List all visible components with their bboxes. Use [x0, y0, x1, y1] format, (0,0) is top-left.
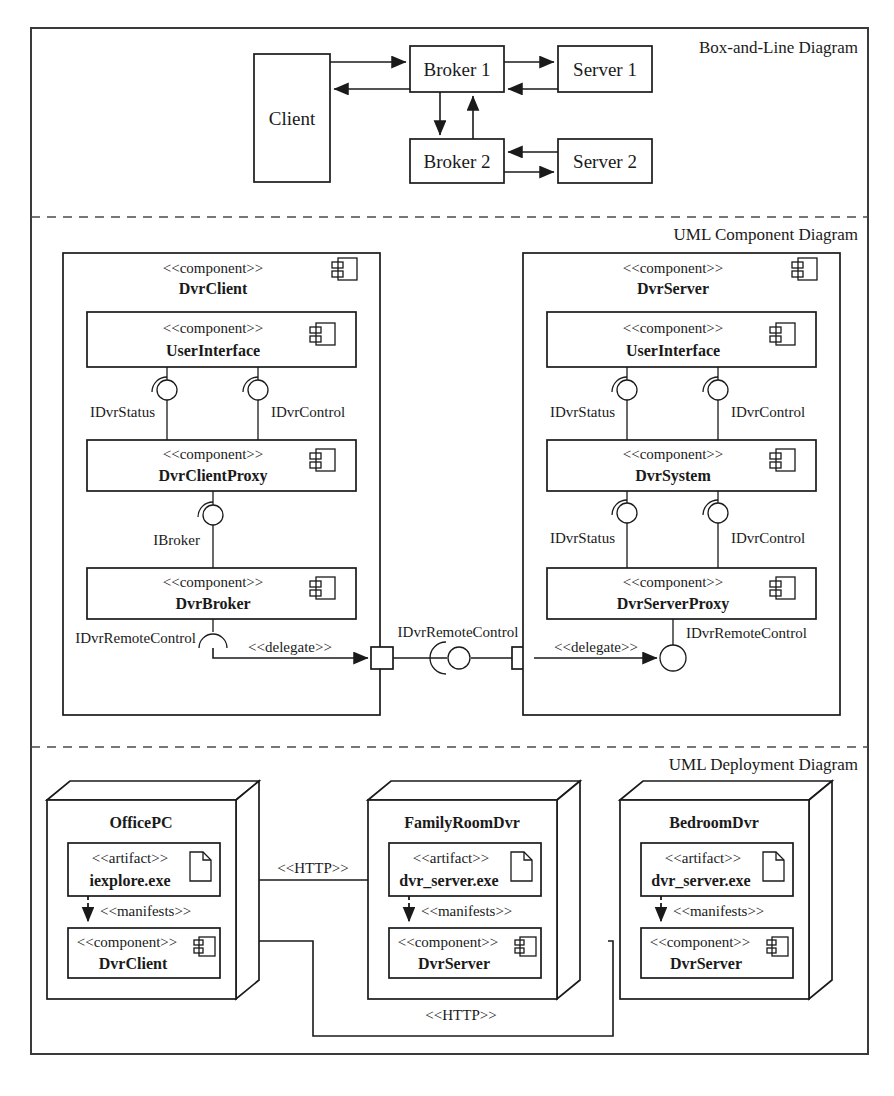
section-title-box-and-line: Box-and-Line Diagram [699, 38, 858, 57]
component-dvrsystem[interactable]: <<component>> DvrSystem [547, 440, 816, 491]
component-stereotype: <<component>> [650, 934, 751, 950]
component-deployed-dvrserver-bedroom-name: DvrServer [670, 955, 742, 972]
interface-label-idvrstatus: IDvrStatus [550, 404, 615, 420]
node-client-label: Client [269, 108, 316, 129]
artifact-iexplore-name: iexplore.exe [89, 872, 170, 890]
component-dvrserverproxy[interactable]: <<component>> DvrServerProxy [547, 568, 816, 619]
interface-label-idvrcontrol: IDvrControl [731, 530, 805, 546]
section-title-uml-deployment: UML Deployment Diagram [669, 755, 858, 774]
interface-label-idvrstatus: IDvrStatus [550, 530, 615, 546]
interface-label-idvrremotecontrol-server: IDvrRemoteControl [686, 625, 807, 641]
deployment-node-familyroomdvr[interactable]: FamilyRoomDvr <<artifact>> dvr_server.ex… [368, 781, 580, 999]
artifact-stereotype: <<artifact>> [665, 850, 741, 866]
component-dvrclient-name: DvrClient [179, 280, 248, 297]
component-dvrclientproxy-stereotype: <<component>> [163, 446, 264, 462]
deployment-node-officepc[interactable]: OfficePC <<artifact>> iexplore.exe <<man… [47, 781, 259, 999]
component-dvrsystem-stereotype: <<component>> [623, 446, 724, 462]
deployment-node-bedroomdvr-top [620, 781, 832, 800]
deployment-node-familyroomdvr-side [557, 781, 580, 999]
component-dvrbroker[interactable]: <<component>> DvrBroker [87, 568, 356, 619]
manifests-label-officepc: <<manifests>> [100, 903, 191, 919]
component-deployed-dvrclient-name: DvrClient [99, 955, 168, 972]
manifests-label-bedroomdvr: <<manifests>> [673, 903, 764, 919]
component-dvrsystem-name: DvrSystem [635, 467, 711, 485]
node-broker2-label: Broker 2 [423, 151, 490, 172]
artifact-stereotype: <<artifact>> [92, 850, 168, 866]
component-dvrbroker-stereotype: <<component>> [163, 574, 264, 590]
deployment-node-officepc-name: OfficePC [109, 814, 172, 831]
deployment-node-bedroomdvr-name: BedroomDvr [669, 814, 758, 831]
artifact-dvr-server-family-name: dvr_server.exe [399, 872, 498, 889]
interface-label-ibroker: IBroker [153, 532, 200, 548]
artifact-dvr-server-bedroom-name: dvr_server.exe [651, 872, 750, 889]
component-client-userinterface[interactable]: <<component>> UserInterface [87, 312, 356, 367]
deployment-node-bedroomdvr[interactable]: BedroomDvr <<artifact>> dvr_server.exe <… [620, 781, 832, 999]
delegate-label-client: <<delegate>> [248, 639, 332, 655]
component-dvrclientproxy-name: DvrClientProxy [158, 467, 267, 485]
deployment-node-officepc-top [47, 781, 259, 800]
deployment-node-bedroomdvr-side [809, 781, 832, 999]
component-dvrserverproxy-name: DvrServerProxy [617, 595, 730, 613]
assembly-connector-systems-idvrremotecontrol: IDvrRemoteControl [393, 624, 518, 674]
node-server2-label: Server 2 [573, 151, 637, 172]
node-broker1-label: Broker 1 [423, 59, 490, 80]
component-dvrbroker-name: DvrBroker [175, 595, 250, 612]
component-server-userinterface[interactable]: <<component>> UserInterface [547, 312, 816, 367]
diagram-canvas: Box-and-Line Diagram Client Broker 1 Ser… [0, 0, 894, 1096]
http-label-bottom: <<HTTP>> [425, 1007, 496, 1023]
component-dvrserver-name: DvrServer [637, 280, 709, 297]
interface-label-idvrremotecontrol-client: IDvrRemoteControl [75, 630, 196, 646]
artifact-stereotype: <<artifact>> [413, 850, 489, 866]
component-server-userinterface-name: UserInterface [626, 342, 720, 359]
component-client-userinterface-stereotype: <<component>> [163, 320, 264, 336]
deployment-node-familyroomdvr-top [368, 781, 580, 800]
component-stereotype: <<component>> [77, 934, 178, 950]
http-label-top: <<HTTP>> [277, 860, 348, 876]
box-and-line-diagram: Client Broker 1 Server 1 Broker 2 Server… [254, 46, 652, 183]
port-dvrclient[interactable] [371, 647, 393, 669]
interface-label-idvrcontrol: IDvrControl [271, 404, 345, 420]
component-client-userinterface-name: UserInterface [166, 342, 260, 359]
component-stereotype: <<component>> [398, 934, 499, 950]
interface-label-idvrremotecontrol-assembly: IDvrRemoteControl [398, 624, 519, 640]
figure-page: Box-and-Line Diagram Client Broker 1 Ser… [0, 0, 894, 1096]
component-deployed-dvrserver-family-name: DvrServer [418, 955, 490, 972]
interface-label-idvrstatus: IDvrStatus [90, 404, 155, 420]
component-dvrserverproxy-stereotype: <<component>> [623, 574, 724, 590]
manifests-label-familyroomdvr: <<manifests>> [421, 903, 512, 919]
component-dvrclient-stereotype: <<component>> [163, 260, 264, 276]
component-dvrclientproxy[interactable]: <<component>> DvrClientProxy [87, 440, 356, 491]
section-title-uml-component: UML Component Diagram [674, 225, 858, 244]
interface-label-idvrcontrol: IDvrControl [731, 404, 805, 420]
component-dvrserver-stereotype: <<component>> [623, 260, 724, 276]
component-server-userinterface-stereotype: <<component>> [623, 320, 724, 336]
node-server1-label: Server 1 [573, 59, 637, 80]
deployment-node-officepc-side [236, 781, 259, 999]
deployment-node-familyroomdvr-name: FamilyRoomDvr [404, 814, 520, 832]
delegate-label-server: <<delegate>> [554, 639, 638, 655]
